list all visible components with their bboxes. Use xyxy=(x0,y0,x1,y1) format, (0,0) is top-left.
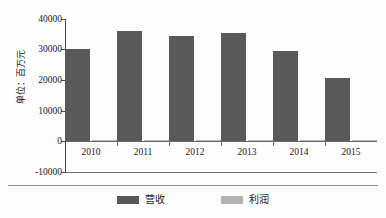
bar-营收-2012 xyxy=(169,36,194,141)
x-tick-label-2010: 2010 xyxy=(65,146,117,158)
bar-营收-2013 xyxy=(221,33,246,141)
x-tick-label-2011: 2011 xyxy=(117,146,169,158)
legend-item-revenue[interactable]: 营收 xyxy=(117,194,165,206)
y-tick-label-20000: 20000 xyxy=(2,75,62,85)
bar-营收-2014 xyxy=(273,51,298,141)
bar-利润-2011 xyxy=(144,140,169,141)
y-tick-label-0: 0 xyxy=(2,136,62,146)
x-tick-label-2012: 2012 xyxy=(169,146,221,158)
legend-label-profit: 利润 xyxy=(249,194,269,206)
bar-营收-2015 xyxy=(325,78,350,141)
bar-chart-figure: 单位：百万元 40000 30000 20000 10000 0 -10000 … xyxy=(0,0,386,218)
legend-swatch-revenue-icon xyxy=(117,196,139,204)
bar-营收-2010 xyxy=(65,49,90,141)
y-tick-label-10000: 10000 xyxy=(2,106,62,116)
y-tick-label-30000: 30000 xyxy=(2,44,62,54)
bar-利润-2014 xyxy=(300,140,325,141)
bar-利润-2012 xyxy=(196,140,221,141)
x-axis-bottom-spine xyxy=(65,172,377,173)
legend-label-revenue: 营收 xyxy=(145,194,165,206)
bars-layer xyxy=(65,19,377,141)
y-tick-label-40000: 40000 xyxy=(2,14,62,24)
bar-利润-2010 xyxy=(92,140,117,141)
legend-item-profit[interactable]: 利润 xyxy=(221,194,269,206)
x-tick-label-2014: 2014 xyxy=(273,146,325,158)
x-tick-label-2013: 2013 xyxy=(221,146,273,158)
legend-separator xyxy=(8,185,378,186)
bar-利润-2013 xyxy=(248,140,273,141)
bar-营收-2011 xyxy=(117,31,142,141)
legend-swatch-profit-icon xyxy=(221,196,243,204)
y-tick-label-neg10000: -10000 xyxy=(2,167,62,177)
bar-利润-2015 xyxy=(352,140,377,141)
x-tick-label-2015: 2015 xyxy=(325,146,377,158)
chart-legend: 营收 利润 xyxy=(0,191,386,209)
